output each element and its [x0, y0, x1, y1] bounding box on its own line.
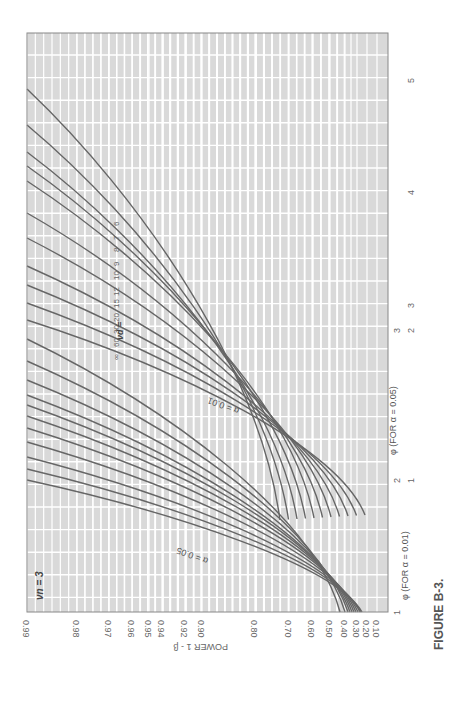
power-tick-label: 0.95: [143, 620, 153, 638]
nu-d-curve-label: 12: [112, 287, 121, 296]
phi-05-tick-label: 5: [406, 78, 416, 83]
nu-d-curve-label: 7: [112, 236, 121, 240]
phi-05-tick-label: 3: [406, 303, 416, 308]
power-chart: [0, 0, 454, 710]
phi-alpha-05-label: φ (FOR α = 0.05): [388, 386, 398, 455]
nu-d-label: νd =: [115, 322, 125, 340]
power-tick-label: 0.60: [306, 620, 316, 638]
power-tick-label: 0.99: [21, 620, 31, 638]
power-tick-label: 0.98: [71, 620, 81, 638]
nu-d-curve-label: 15: [112, 299, 121, 308]
phi-01-tick-label: 3: [392, 328, 402, 333]
power-tick-label: 0.30: [351, 620, 361, 638]
power-tick-label: 0.10: [371, 620, 381, 638]
power-tick-label: 0.94: [156, 620, 166, 638]
power-tick-label: 0.96: [126, 620, 136, 638]
power-tick-label: 0.92: [179, 620, 189, 638]
phi-alpha-01-label: φ (FOR α = 0.01): [400, 531, 410, 600]
power-tick-label: 0.50: [324, 620, 334, 638]
phi-05-tick-label: 2: [406, 328, 416, 333]
nu-d-curve-label: 20: [112, 313, 121, 322]
power-tick-label: 0.90: [196, 620, 206, 638]
power-axis-label: POWER 1 - β: [173, 642, 228, 652]
power-tick-label: 0.97: [103, 620, 113, 638]
nu-d-curve-label: 10: [112, 271, 121, 280]
power-tick-label: 0.20: [361, 620, 371, 638]
power-tick-label: 0.80: [249, 620, 259, 638]
phi-05-tick-label: 1: [406, 478, 416, 483]
nu-n-label: νn = 3: [34, 571, 45, 600]
power-tick-label: 0.40: [339, 620, 349, 638]
nu-d-curve-label: 6: [112, 222, 121, 226]
nu-d-curve-label: ∞: [112, 354, 121, 360]
chart-grid: [27, 33, 388, 612]
nu-d-curve-label: 9: [112, 262, 121, 266]
nu-d-curve-label: 8: [112, 248, 121, 252]
phi-01-tick-label: 2: [392, 478, 402, 483]
power-tick-label: 0.70: [283, 620, 293, 638]
phi-05-tick-label: 4: [406, 190, 416, 195]
figure-caption: FIGURE B-3.: [432, 579, 446, 650]
phi-01-tick-label: 1: [392, 610, 402, 615]
